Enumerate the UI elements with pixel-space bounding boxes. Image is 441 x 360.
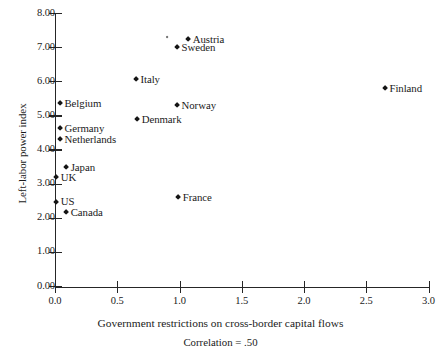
y-tick-label: 8.00 <box>9 8 55 19</box>
data-point <box>166 36 169 39</box>
data-point <box>53 199 59 205</box>
y-axis-title: Left-labor power index <box>17 64 28 244</box>
data-point <box>174 44 180 50</box>
data-point <box>57 136 63 142</box>
data-point <box>382 85 388 91</box>
x-tick-mark <box>55 281 56 293</box>
data-point-label: Sweden <box>182 42 216 53</box>
data-point-label: Italy <box>140 74 160 85</box>
x-tick-label: 0.5 <box>97 295 137 306</box>
data-point-label: Netherlands <box>64 134 116 145</box>
data-point-label: Norway <box>182 100 216 111</box>
x-tick-label: 1.0 <box>160 295 200 306</box>
y-tick-label: 0.00 <box>9 281 55 292</box>
data-point <box>174 102 180 108</box>
x-tick-mark <box>366 281 367 293</box>
data-point <box>63 164 69 170</box>
data-point-label: Belgium <box>64 98 101 109</box>
x-axis-title: Government restrictions on cross-border … <box>0 317 441 329</box>
data-point <box>57 126 63 132</box>
x-tick-label: 0.0 <box>35 295 75 306</box>
correlation-annotation: Correlation = .50 <box>0 337 441 348</box>
data-point <box>133 76 139 82</box>
x-tick-label: 1.5 <box>222 295 262 306</box>
data-point-label: Canada <box>71 207 103 218</box>
x-tick-mark <box>304 281 305 293</box>
data-point <box>57 100 63 106</box>
data-point <box>175 195 181 201</box>
data-point-label: Denmark <box>142 114 182 125</box>
data-point-label: UK <box>61 172 77 183</box>
x-tick-label: 3.0 <box>409 295 441 306</box>
data-point <box>134 116 140 122</box>
x-tick-label: 2.5 <box>346 295 386 306</box>
x-tick-mark <box>180 281 181 293</box>
y-tick-label: 1.00 <box>9 246 55 257</box>
x-tick-mark <box>429 281 430 293</box>
scatter-chart: 0.001.002.003.004.005.006.007.008.00 0.0… <box>0 0 441 360</box>
data-point <box>63 210 69 216</box>
x-tick-mark <box>242 281 243 293</box>
data-point-label: Finland <box>389 83 422 94</box>
x-tick-label: 2.0 <box>284 295 324 306</box>
data-point-label: France <box>183 192 212 203</box>
x-tick-mark <box>117 281 118 293</box>
y-tick-label: 7.00 <box>9 42 55 53</box>
